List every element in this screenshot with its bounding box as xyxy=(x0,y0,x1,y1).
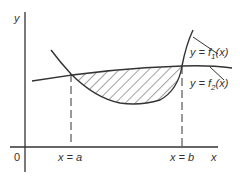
bound-b-label: x = b xyxy=(170,152,194,163)
area-between-curves-diagram: y 0 x = a x = b x y = f1(x) y = f2(x) xyxy=(0,0,240,182)
f2-label: y = f2(x) xyxy=(190,78,228,92)
bound-a-label: x = a xyxy=(58,152,82,163)
y-axis-label: y xyxy=(14,13,20,24)
x-axis-label: x xyxy=(211,152,217,163)
f1-label: y = f1(x) xyxy=(190,47,228,61)
shaded-area xyxy=(71,66,182,104)
origin-label: 0 xyxy=(14,152,20,163)
